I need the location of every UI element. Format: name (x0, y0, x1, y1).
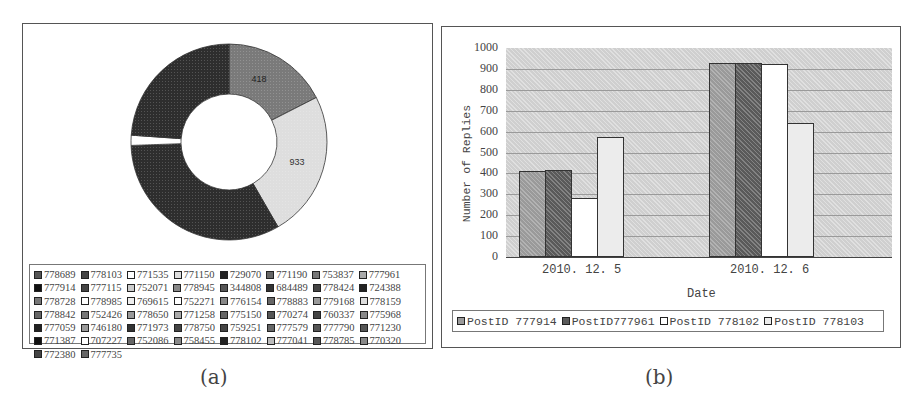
gridline (506, 69, 892, 70)
donut-slice (131, 144, 278, 240)
pie-legend-label: 752426 (91, 308, 123, 321)
legend-swatch-icon (313, 324, 321, 332)
pie-legend-label: 776154 (230, 295, 262, 308)
pie-legend-item: 777579 (267, 321, 309, 334)
legend-swatch-icon (174, 311, 182, 319)
pie-legend-item: 771190 (266, 268, 307, 281)
pie-legend-item: 752086 (127, 334, 169, 347)
legend-swatch-icon (34, 311, 42, 319)
bar-legend-label: PostID 778102 (670, 315, 760, 328)
pie-legend-item: 770320 (360, 334, 402, 347)
pie-legend-item: 772380 (34, 348, 76, 361)
pie-legend-item: 777115 (81, 281, 122, 294)
legend-swatch-icon (220, 337, 228, 345)
y-tick-label: 800 (458, 82, 498, 97)
pie-legend-label: 777059 (44, 321, 76, 334)
legend-swatch-icon (220, 284, 228, 292)
bar-2010.12.6-series-4 (787, 123, 814, 257)
pie-legend-label: 752271 (184, 295, 216, 308)
pie-legend-item: 344808 (220, 281, 262, 294)
pie-legend: 7786897781037715357711507290707711907538… (29, 264, 426, 344)
pie-legend-item: 777059 (34, 321, 76, 334)
pie-legend-item: 778159 (360, 295, 402, 308)
legend-swatch-icon (81, 350, 89, 358)
pie-legend-item: 760337 (313, 308, 355, 321)
pie-legend-label: 758455 (184, 334, 216, 347)
pie-legend-item: 778728 (34, 295, 76, 308)
legend-swatch-icon (312, 271, 320, 279)
pie-legend-label: 759251 (230, 321, 262, 334)
donut-slices (131, 44, 327, 240)
pie-legend-label: 684489 (276, 281, 308, 294)
pie-legend-item: 778883 (267, 295, 309, 308)
pie-legend-item: 778424 (313, 281, 355, 294)
pie-legend-item: 777790 (313, 321, 355, 334)
pie-legend-item: 746180 (81, 321, 123, 334)
legend-swatch-icon (359, 271, 367, 279)
legend-swatch-icon (360, 297, 368, 305)
legend-swatch-icon (81, 337, 89, 345)
bar-2010.12.5-series-1 (519, 171, 546, 257)
legend-swatch-icon (34, 324, 42, 332)
pie-legend-item: 770274 (267, 308, 309, 321)
pie-legend-item: 778842 (34, 308, 76, 321)
legend-swatch-icon (34, 350, 42, 358)
pie-legend-item: 778103 (81, 268, 123, 281)
pie-legend-item: 759251 (220, 321, 262, 334)
pie-legend-item: 779168 (313, 295, 355, 308)
y-axis-label: Number of Replies (460, 104, 473, 224)
pie-legend-item: 752071 (127, 281, 169, 294)
pie-legend-item: 724388 (359, 281, 401, 294)
pie-legend-label: 778650 (137, 308, 169, 321)
bar-2010.12.5-series-2 (545, 170, 572, 257)
legend-swatch-icon (127, 324, 135, 332)
donut-chart: 418 933 (129, 42, 329, 242)
pie-legend-item: 778102 (220, 334, 262, 347)
donut-slice (131, 44, 229, 139)
pie-legend-label: 777790 (323, 321, 355, 334)
pie-legend-item: 758455 (174, 334, 216, 347)
pie-legend-label: 778945 (183, 281, 215, 294)
legend-swatch-icon (81, 311, 89, 319)
x-tick-1: 2010. 12. 5 (542, 263, 621, 277)
plot-area (506, 48, 892, 258)
legend-swatch-icon (660, 317, 668, 325)
legend-swatch-icon (34, 337, 42, 345)
legend-swatch-icon (360, 311, 368, 319)
pie-legend-item: 769615 (127, 295, 169, 308)
pie-legend-label: 729070 (230, 268, 262, 281)
legend-swatch-icon (81, 297, 89, 305)
gridline (506, 153, 892, 154)
legend-swatch-icon (764, 317, 772, 325)
legend-swatch-icon (34, 284, 42, 292)
legend-swatch-icon (220, 311, 228, 319)
bar-2010.12.5-series-3 (571, 198, 598, 257)
pie-legend-label: 724388 (369, 281, 401, 294)
pie-legend-item: 778689 (34, 268, 76, 281)
pie-legend-item: 777914 (34, 281, 76, 294)
y-tick-label: 0 (458, 249, 498, 264)
gridline (506, 132, 892, 133)
pie-legend-label: 771258 (184, 308, 216, 321)
pie-legend-item: 778945 (173, 281, 215, 294)
bar-2010.12.5-series-4 (597, 137, 624, 257)
legend-swatch-icon (267, 337, 275, 345)
pie-legend-label: 778785 (323, 334, 355, 347)
pie-legend-item: 778985 (81, 295, 123, 308)
pie-legend-label: 771150 (184, 268, 215, 281)
legend-swatch-icon (360, 337, 368, 345)
legend-swatch-icon (34, 271, 42, 279)
legend-swatch-icon (127, 337, 135, 345)
legend-swatch-icon (127, 284, 135, 292)
pie-legend-label: 770320 (370, 334, 402, 347)
pie-legend-label: 746180 (91, 321, 123, 334)
legend-swatch-icon (359, 284, 367, 292)
pie-legend-item: 707227 (81, 334, 123, 347)
pie-legend-label: 778159 (370, 295, 402, 308)
legend-swatch-icon (267, 311, 275, 319)
pie-legend-label: 777961 (369, 268, 401, 281)
pie-legend-label: 777914 (44, 281, 76, 294)
legend-swatch-icon (127, 297, 135, 305)
legend-swatch-icon (81, 271, 89, 279)
pie-legend-label: 772380 (44, 348, 76, 361)
